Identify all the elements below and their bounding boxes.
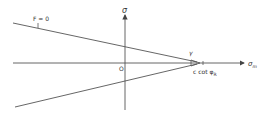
upper-envelope-line bbox=[13, 23, 197, 62]
diagram-canvas: F = 0 σ O γ c cot φR σm bbox=[0, 0, 269, 115]
angle-label: γ bbox=[189, 49, 193, 57]
apex-label: c cot φR bbox=[193, 68, 217, 77]
origin-label: O bbox=[119, 65, 124, 72]
lower-envelope-line bbox=[15, 64, 197, 107]
horizontal-axis-label: σm bbox=[248, 60, 257, 69]
vertical-axis-label: σ bbox=[122, 6, 128, 15]
upper-line-label: F = 0 bbox=[33, 15, 49, 22]
